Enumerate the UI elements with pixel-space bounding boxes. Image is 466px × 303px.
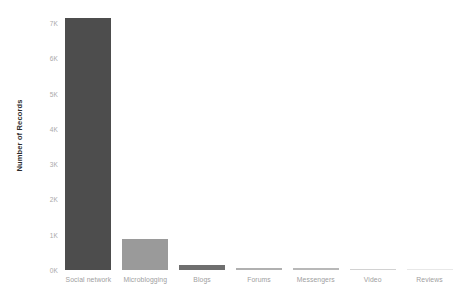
bar-slot	[401, 16, 458, 270]
bar[interactable]	[293, 268, 339, 270]
bar-slot	[287, 16, 344, 270]
y-axis-tick-label: 7K	[50, 20, 58, 27]
x-axis-tick-label: Social network	[60, 276, 117, 283]
y-axis-tick-label: 4K	[50, 125, 58, 132]
x-axis-tick-label: Blogs	[174, 276, 231, 283]
y-axis-title: Number of Records	[10, 0, 28, 270]
plot-area	[60, 16, 458, 270]
bar-slot	[60, 16, 117, 270]
y-axis-tick-label: 3K	[50, 161, 58, 168]
y-axis-tick-label: 6K	[50, 55, 58, 62]
x-axis-tick-label: Reviews	[401, 276, 458, 283]
bar-slot	[231, 16, 288, 270]
x-axis-tick-label: Microblogging	[117, 276, 174, 283]
bar[interactable]	[65, 18, 111, 270]
bar[interactable]	[179, 265, 225, 270]
x-axis-tick-label: Messengers	[287, 276, 344, 283]
bar[interactable]	[236, 268, 282, 270]
bar-slot	[344, 16, 401, 270]
bar-chart: Number of Records 0K1K2K3K4K5K6K7K Socia…	[0, 0, 466, 303]
bar[interactable]	[122, 239, 168, 270]
bar-slot	[117, 16, 174, 270]
y-axis-tick-label: 5K	[50, 90, 58, 97]
x-axis-tick-labels: Social networkMicrobloggingBlogsForumsMe…	[60, 276, 458, 294]
y-axis-tick-label: 1K	[50, 231, 58, 238]
bar-slot	[174, 16, 231, 270]
x-axis-tick-label: Video	[344, 276, 401, 283]
bar[interactable]	[407, 269, 453, 270]
bars-layer	[60, 16, 458, 270]
y-axis-tick-label: 0K	[50, 267, 58, 274]
x-axis-tick-label: Forums	[231, 276, 288, 283]
y-axis-title-label: Number of Records	[15, 99, 24, 171]
y-axis-tick-labels: 0K1K2K3K4K5K6K7K	[36, 0, 58, 303]
bar[interactable]	[350, 269, 396, 270]
y-axis-tick-label: 2K	[50, 196, 58, 203]
